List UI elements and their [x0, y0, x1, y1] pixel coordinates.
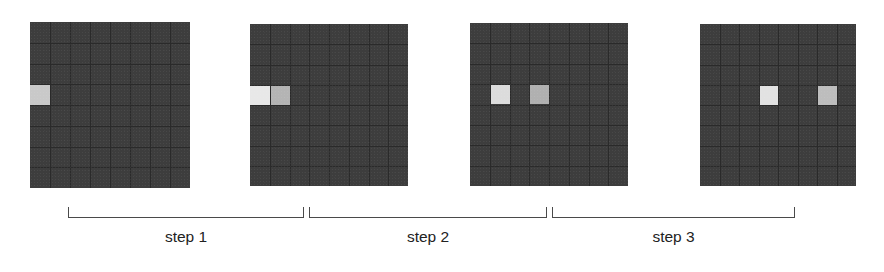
bracket-step-2	[309, 207, 547, 218]
grid-cell-highlight	[529, 84, 549, 104]
grid-background	[470, 23, 628, 186]
grid-cell-highlight	[30, 84, 50, 105]
grid-cell-highlight	[817, 85, 837, 105]
grid-cell-highlight	[270, 85, 290, 105]
step-label: step 3	[552, 228, 795, 246]
grid-background	[700, 24, 856, 186]
bracket-step-1	[68, 207, 304, 218]
grid-panel-4	[700, 24, 856, 186]
grid-panel-2	[250, 24, 408, 186]
grid-panel-1	[30, 22, 190, 188]
grid-cell-highlight	[759, 85, 779, 105]
grid-cell-highlight	[250, 85, 270, 105]
step-label: step 1	[68, 228, 304, 246]
figure-canvas: step 1step 2step 3	[0, 0, 884, 272]
grid-panel-3	[470, 23, 628, 186]
grid-background	[250, 24, 408, 186]
grid-cell-highlight	[490, 84, 510, 104]
step-label: step 2	[309, 228, 547, 246]
bracket-step-3	[552, 207, 795, 218]
grid-background	[30, 22, 190, 188]
